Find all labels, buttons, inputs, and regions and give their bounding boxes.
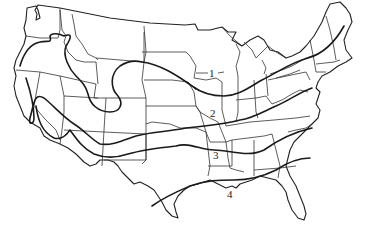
zone-line-1 (20, 26, 344, 112)
us-zone-map: 1 2 3 4 (0, 0, 369, 242)
zone-label-1: 1 (209, 68, 215, 79)
map-canvas (0, 0, 369, 242)
state-boundaries (16, 8, 340, 178)
zone-line-3 (36, 106, 312, 157)
zone-label-3: 3 (213, 150, 219, 161)
zone-label-4: 4 (227, 189, 233, 200)
zone-label-2: 2 (210, 108, 216, 119)
great-lakes (222, 27, 318, 78)
zone-1-leader-right (218, 72, 224, 73)
